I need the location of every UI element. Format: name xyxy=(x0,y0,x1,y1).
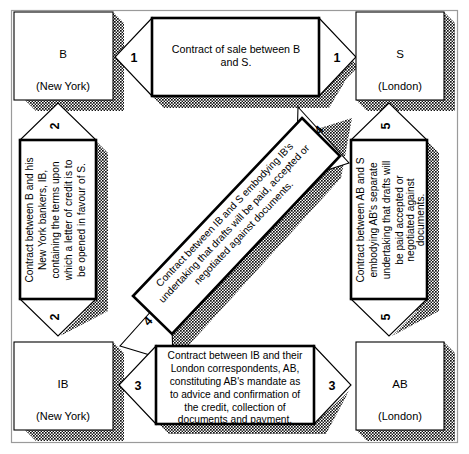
arrow-2-line-4: be opened in favour of S. xyxy=(76,163,87,277)
documentary-credit-diagram: Contract of sale between B and S. 1 1 Co… xyxy=(0,0,469,454)
node-B[interactable]: B (New York) xyxy=(14,12,113,100)
arrow-1-number-end: 1 xyxy=(334,51,341,65)
arrow-3-line-0: Contract between IB and their xyxy=(168,350,303,361)
arrow-2-contract-b-ib[interactable]: Contract between B and his New York bank… xyxy=(20,103,96,336)
node-S-location: (London) xyxy=(378,80,422,92)
arrow-5-contract-ab-s[interactable]: Contract between AB and S embodying AB's… xyxy=(351,103,427,336)
arrow-5-number-start: 5 xyxy=(379,122,393,129)
diagram-canvas: Contract of sale between B and S. 1 1 Co… xyxy=(0,0,469,454)
arrow-5-line-5: documents. xyxy=(415,194,426,247)
arrow-2-line-1: New York bankers, IB, xyxy=(37,170,48,270)
arrow-3-line-3: to advice and confirmation of xyxy=(170,389,300,400)
arrow-4-contract-ib-s[interactable]: Contract between IB and S embodying IB's… xyxy=(120,107,349,362)
arrow-3-number-end: 3 xyxy=(329,379,336,393)
arrow-5-line-2: undertaking that drafts will xyxy=(381,161,392,279)
arrow-1-number-start: 1 xyxy=(131,51,138,65)
node-IB-label: IB xyxy=(58,378,69,390)
arrow-5-line-0: Contract between AB and S xyxy=(355,157,366,282)
node-S-label: S xyxy=(396,48,404,60)
arrow-3-line-1: London correspondents, AB, xyxy=(171,363,300,374)
node-AB-location: (London) xyxy=(378,410,422,422)
arrow-1-line-0: Contract of sale between B xyxy=(172,43,300,55)
arrow-3-line-4: the credit, collection of xyxy=(184,402,286,413)
arrow-3-number-start: 3 xyxy=(135,379,142,393)
arrow-2-line-0: Contract between B and his xyxy=(24,157,35,282)
arrow-5-number-end: 5 xyxy=(379,313,393,320)
arrow-2-number-start: 2 xyxy=(48,122,62,129)
arrow-5-line-3: be paid accepted or xyxy=(394,175,405,265)
arrow-2-number-end: 2 xyxy=(48,313,62,320)
node-B-location: (New York) xyxy=(36,80,90,92)
arrow-2-line-2: containing the terms upon xyxy=(50,161,61,278)
node-B-label: B xyxy=(59,48,67,60)
node-IB-location: (New York) xyxy=(36,410,90,422)
node-S[interactable]: S (London) xyxy=(356,12,444,100)
arrow-3-line-2: constituting AB's mandate as xyxy=(170,376,301,387)
arrow-3-line-5: documents and payment. xyxy=(178,414,292,425)
arrow-1-contract-of-sale[interactable]: Contract of sale between B and S. 1 1 xyxy=(115,18,356,96)
arrow-5-line-1: embodying AB's separate xyxy=(368,162,379,278)
node-AB-label: AB xyxy=(392,378,408,390)
arrow-1-line-1: and S. xyxy=(221,56,252,68)
arrow-2-line-3: which a letter of credit is to xyxy=(63,159,74,281)
node-IB[interactable]: IB (New York) xyxy=(14,342,113,430)
node-AB[interactable]: AB (London) xyxy=(356,342,444,430)
arrow-3-contract-ib-ab[interactable]: Contract between IB and their London cor… xyxy=(119,346,351,425)
